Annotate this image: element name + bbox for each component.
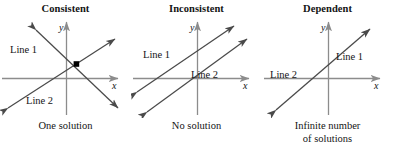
y-axis-label: y bbox=[189, 22, 195, 33]
panel-dependent: Dependent y x bbox=[262, 0, 393, 156]
plot-consistent: y x Line 1 Line 2 bbox=[0, 16, 131, 118]
caption-line: Infinite number bbox=[262, 120, 393, 133]
plot-dependent: y x Line 2 Line 1 bbox=[262, 16, 393, 118]
x-axis-label: x bbox=[111, 80, 117, 91]
intersection-point bbox=[74, 61, 80, 67]
panel-inconsistent: Inconsistent bbox=[131, 0, 262, 156]
line-label-2: Line 2 bbox=[191, 69, 218, 80]
panel-title-consistent: Consistent bbox=[0, 3, 131, 15]
panel-title-dependent: Dependent bbox=[262, 3, 393, 15]
panel-consistent: Consistent bbox=[0, 0, 131, 156]
y-axis-label: y bbox=[320, 22, 326, 33]
panel-title-inconsistent: Inconsistent bbox=[131, 3, 262, 15]
line-label-1: Line 1 bbox=[336, 51, 363, 62]
panel-caption-consistent: One solution bbox=[0, 120, 131, 133]
line-label-1: Line 1 bbox=[10, 44, 37, 55]
systems-of-equations-figure: Consistent bbox=[0, 0, 393, 156]
y-axis-label: y bbox=[58, 22, 64, 33]
panel-caption-inconsistent: No solution bbox=[131, 120, 262, 133]
caption-line: One solution bbox=[0, 120, 131, 133]
caption-line: No solution bbox=[131, 120, 262, 133]
x-axis-label: x bbox=[242, 80, 248, 91]
x-axis-label: x bbox=[373, 80, 379, 91]
panel-caption-dependent: Infinite number of solutions bbox=[262, 120, 393, 145]
line-label-2: Line 2 bbox=[26, 95, 53, 106]
line-label-1: Line 1 bbox=[143, 49, 170, 60]
line-label-2: Line 2 bbox=[270, 69, 297, 80]
caption-line: of solutions bbox=[262, 133, 393, 146]
plot-inconsistent: y x Line 1 Line 2 bbox=[131, 16, 262, 118]
